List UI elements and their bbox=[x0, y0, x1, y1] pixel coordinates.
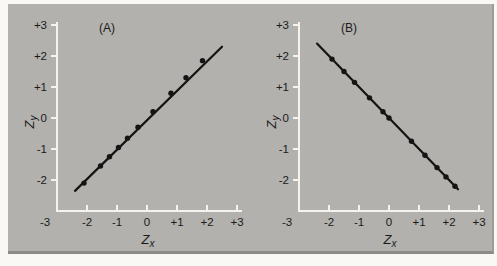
y-tick-label: -1 bbox=[279, 143, 289, 155]
y-tick-label: +1 bbox=[34, 81, 47, 93]
x-tick-label: +3 bbox=[472, 216, 485, 228]
x-tick-label: 0 bbox=[144, 216, 150, 228]
scatter-plot-a: +3+2+10-1-2-3-2-10+1+2+3(A)ZxZy bbox=[8, 4, 248, 251]
data-point bbox=[150, 109, 155, 114]
x-tick-label: +1 bbox=[170, 216, 183, 228]
data-point bbox=[367, 95, 372, 100]
x-tick-label: -3 bbox=[40, 216, 50, 228]
y-tick-label: +2 bbox=[34, 50, 47, 62]
y-tick-label: 0 bbox=[283, 112, 289, 124]
data-point bbox=[380, 109, 385, 114]
data-point bbox=[116, 145, 121, 150]
data-point bbox=[183, 75, 188, 80]
scatter-plot-canvas: +3+2+10-1-2-3-2-10+1+2+3(B)ZxZy bbox=[250, 4, 490, 251]
y-tick-label: +3 bbox=[34, 19, 47, 31]
data-point bbox=[352, 80, 357, 85]
y-tick-label: -2 bbox=[37, 174, 47, 186]
scatter-plot-canvas: +3+2+10-1-2-3-2-10+1+2+3(A)ZxZy bbox=[8, 4, 248, 251]
scatter-plot-b: +3+2+10-1-2-3-2-10+1+2+3(B)ZxZy bbox=[250, 4, 490, 251]
x-tick-label: +1 bbox=[412, 216, 425, 228]
data-point bbox=[200, 58, 205, 63]
data-point bbox=[422, 153, 427, 158]
panel-label: (A) bbox=[99, 21, 115, 35]
x-tick-label: -2 bbox=[82, 216, 92, 228]
y-tick-label: +1 bbox=[276, 81, 289, 93]
data-point bbox=[386, 115, 391, 120]
x-tick-label: 0 bbox=[386, 216, 392, 228]
panel-label: (B) bbox=[341, 21, 357, 35]
data-point bbox=[443, 174, 448, 179]
data-point bbox=[81, 180, 86, 185]
figure-panel: +3+2+10-1-2-3-2-10+1+2+3(A)ZxZy +3+2+10-… bbox=[8, 4, 494, 254]
x-axis-title: Zx bbox=[141, 232, 156, 249]
y-tick-label: -1 bbox=[37, 143, 47, 155]
data-point bbox=[107, 154, 112, 159]
y-tick-label: -2 bbox=[279, 174, 289, 186]
data-point bbox=[329, 56, 334, 61]
data-point bbox=[98, 163, 103, 168]
y-axis-title: Zy bbox=[264, 115, 281, 130]
data-point bbox=[341, 69, 346, 74]
x-tick-label: +2 bbox=[442, 216, 455, 228]
x-tick-label: -2 bbox=[324, 216, 334, 228]
data-point bbox=[125, 135, 130, 140]
x-tick-label: +2 bbox=[200, 216, 213, 228]
regression-line bbox=[75, 47, 222, 191]
x-tick-label: -3 bbox=[282, 216, 292, 228]
y-tick-label: 0 bbox=[41, 112, 47, 124]
y-axis-title: Zy bbox=[22, 115, 39, 130]
data-point bbox=[452, 184, 457, 189]
data-point bbox=[135, 125, 140, 130]
x-tick-label: -1 bbox=[112, 216, 122, 228]
y-tick-label: +3 bbox=[276, 19, 289, 31]
data-point bbox=[434, 165, 439, 170]
data-point bbox=[409, 139, 414, 144]
x-tick-label: -1 bbox=[354, 216, 364, 228]
x-axis-title: Zx bbox=[383, 232, 398, 249]
y-tick-label: +2 bbox=[276, 50, 289, 62]
x-tick-label: +3 bbox=[230, 216, 243, 228]
data-point bbox=[168, 91, 173, 96]
